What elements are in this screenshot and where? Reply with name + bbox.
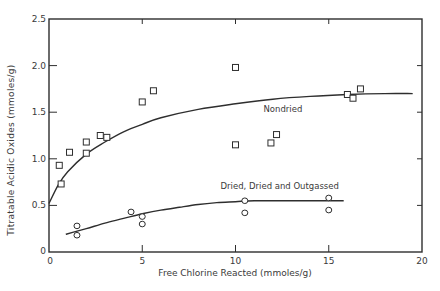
chart: Titratable Acidic Oxides (mmoles/g) 0510… [0,0,440,291]
y-tick-label: 1.0 [32,154,47,164]
square-marker [67,149,73,155]
x-axis-label: Free Chlorine Reacted (mmoles/g) [158,268,311,278]
circle-marker [326,195,332,201]
square-marker [83,150,89,156]
square-marker [357,86,363,92]
square-marker [268,140,274,146]
plot-area: 0510152000.51.01.52.02.5 NondriedDried, … [0,0,440,291]
y-tick-label: 1.5 [32,107,46,117]
y-axis-label: Titratable Acidic Oxides (mmoles/g) [3,60,19,240]
x-tick-label: 20 [416,256,428,266]
circle-marker [242,198,248,204]
square-marker [139,99,145,105]
series-label: Nondried [263,104,302,114]
circle-marker [139,221,145,227]
circle-marker [139,214,145,220]
y-tick-label: 2.0 [32,61,47,71]
x-tick-label: 5 [139,256,145,266]
series-label: Dried, Dried and Outgassed [221,181,339,191]
square-marker [104,134,110,140]
square-marker [233,142,239,148]
circle-marker [128,209,134,215]
square-marker [58,181,64,187]
circle-marker [242,210,248,216]
square-marker [83,139,89,145]
y-tick-label: 0 [40,246,46,256]
axes: 0510152000.51.01.52.02.5 [32,14,428,266]
square-marker [233,64,239,70]
circle-marker [74,232,80,238]
y-tick-label: 0.5 [32,200,46,210]
x-tick-label: 10 [230,256,242,266]
circle-marker [326,207,332,213]
x-tick-label: 0 [47,256,53,266]
square-marker [350,95,356,101]
square-marker [274,132,280,138]
fit-curve-circle [66,201,344,235]
square-marker [150,88,156,94]
y-axis-label-text: Titratable Acidic Oxides (mmoles/g) [6,64,16,235]
fit-curves [49,94,413,235]
y-tick-label: 2.5 [32,14,46,24]
data-markers [56,64,363,238]
circle-marker [74,223,80,229]
square-marker [56,162,62,168]
x-tick-label: 15 [323,256,334,266]
square-marker [97,133,103,139]
